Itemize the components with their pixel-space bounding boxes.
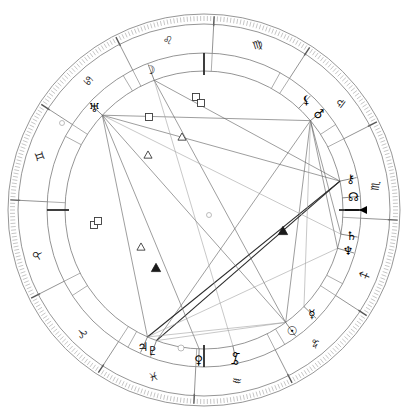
- house-cusp-line-11: [271, 73, 280, 89]
- degree-tick: [45, 99, 49, 102]
- degree-tick: [366, 110, 370, 113]
- sign-divider: [336, 296, 360, 312]
- degree-tick: [377, 287, 382, 289]
- degree-tick: [134, 386, 136, 391]
- zodiac-sign-gemini: ♊: [31, 150, 46, 163]
- degree-tick: [18, 265, 23, 266]
- degree-tick: [15, 166, 20, 167]
- degree-tick: [110, 375, 112, 379]
- degree-tick: [392, 230, 397, 231]
- degree-tick: [13, 243, 18, 244]
- degree-tick: [101, 370, 104, 374]
- degree-tick: [82, 357, 85, 361]
- sign-divider: [212, 24, 214, 53]
- degree-tick: [272, 386, 274, 391]
- degree-tick: [64, 341, 68, 344]
- degree-tick: [170, 19, 171, 24]
- degree-tick: [110, 40, 112, 44]
- degree-tick: [38, 110, 42, 113]
- degree-tick: [387, 163, 392, 164]
- aspect-marker-square: [198, 100, 205, 107]
- degree-tick: [141, 27, 143, 32]
- sign-divider: [275, 350, 288, 376]
- degree-tick: [366, 307, 370, 310]
- degree-tick: [333, 68, 336, 72]
- degree-tick: [157, 22, 158, 27]
- degree-tick: [164, 20, 165, 25]
- degree-tick: [170, 396, 171, 401]
- degree-tick: [180, 398, 181, 403]
- degree-tick: [378, 284, 383, 286]
- degree-tick: [119, 36, 121, 41]
- degree-tick: [28, 290, 33, 292]
- degree-tick: [278, 31, 280, 36]
- degree-tick: [390, 176, 395, 177]
- sign-divider-inner: [343, 217, 361, 218]
- degree-tick: [39, 310, 43, 313]
- planet-glyph-chiron: ⚷: [346, 172, 355, 186]
- sign-divider-inner: [118, 327, 128, 342]
- degree-tick: [361, 102, 365, 105]
- degree-tick: [335, 346, 338, 350]
- degree-tick: [227, 17, 228, 22]
- degree-tick: [382, 144, 387, 146]
- degree-tick: [28, 128, 33, 130]
- degree-tick: [14, 170, 19, 171]
- degree-tick: [307, 369, 310, 373]
- aspect-line: [154, 80, 340, 181]
- degree-tick: [380, 278, 385, 280]
- degree-tick: [25, 284, 30, 286]
- degree-tick: [25, 134, 30, 136]
- degree-tick: [355, 324, 359, 327]
- sign-divider: [18, 200, 47, 202]
- degree-tick: [15, 253, 20, 254]
- degree-tick: [256, 392, 257, 397]
- sign-divider-inner: [267, 334, 275, 350]
- degree-tick: [18, 262, 23, 263]
- degree-tick: [385, 265, 390, 266]
- degree-tick: [379, 281, 384, 283]
- degree-tick: [22, 144, 27, 146]
- planet-glyph-mars: ♂: [314, 107, 325, 121]
- house-ring-inner-circle: [65, 71, 343, 349]
- degree-tick: [318, 361, 321, 365]
- degree-tick: [371, 119, 375, 121]
- degree-tick: [247, 394, 248, 399]
- planet-glyph-layer: ☽♅♂⚸⚷☊♄♆☿☉♀♇♃⯙: [89, 63, 359, 367]
- degree-tick: [382, 275, 387, 277]
- aspect-marker-trine: [151, 263, 160, 271]
- degree-tick: [64, 75, 68, 78]
- house-cusp-line-12: [321, 124, 336, 134]
- degree-tick: [14, 246, 19, 247]
- degree-tick: [122, 381, 124, 386]
- degree-tick: [60, 336, 64, 339]
- zodiac-sign-aquarius: ♒: [231, 373, 243, 388]
- degree-tick: [82, 59, 85, 63]
- degree-tick: [27, 287, 32, 289]
- degree-tick: [33, 119, 37, 121]
- degree-tick: [338, 73, 342, 77]
- degree-tick: [349, 85, 353, 88]
- degree-tick: [284, 381, 286, 386]
- degree-tick: [67, 73, 71, 77]
- degree-tick: [259, 391, 260, 396]
- natal-chart-wheel: ♌♋♊♉♈♓♒♑♐♏♎♍ ☽♅♂⚸⚷☊♄♆☿☉♀♇♃⯙: [0, 0, 408, 420]
- degree-tick: [160, 394, 161, 399]
- degree-tick: [253, 393, 254, 398]
- degree-tick: [87, 361, 90, 365]
- degree-tick: [13, 176, 18, 177]
- sign-divider: [290, 54, 306, 78]
- degree-tick: [43, 316, 47, 319]
- degree-tick: [293, 39, 295, 43]
- sign-divider-inner: [321, 286, 336, 296]
- degree-tick: [364, 107, 368, 110]
- planet-glyph-northnode: ☊: [348, 190, 359, 204]
- aspect-marker-square: [146, 114, 153, 121]
- planet-glyph-pisces-pt: ⯙: [231, 352, 240, 366]
- degree-tick: [27, 131, 32, 133]
- aspect-marker-conjunction: [178, 345, 184, 351]
- degree-tick: [323, 357, 326, 361]
- degree-tick: [119, 380, 121, 385]
- degree-tick: [312, 365, 315, 369]
- aspect-line: [154, 80, 233, 346]
